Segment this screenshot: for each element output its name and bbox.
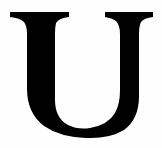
letter-u: U bbox=[0, 0, 162, 148]
letter-canvas: U bbox=[0, 0, 162, 148]
letter-u-glyph bbox=[0, 0, 162, 148]
